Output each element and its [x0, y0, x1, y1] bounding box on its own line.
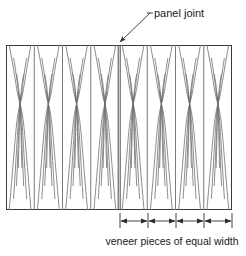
dimension-caption: veneer pieces of equal width — [105, 235, 238, 247]
panel-joint-callout: panel joint — [120, 7, 204, 42]
dimension-segment — [177, 219, 204, 224]
dimension-segment — [149, 219, 176, 224]
panel-body — [7, 45, 232, 210]
dimension-string — [120, 213, 232, 228]
veneer-panel-diagram: panel joint — [0, 0, 246, 256]
figure-root: panel joint — [0, 0, 246, 256]
panel-joint-leader-line — [120, 13, 150, 42]
dimension-segment — [121, 219, 148, 224]
panel-joint-label: panel joint — [154, 7, 204, 19]
dimension-segment — [205, 219, 232, 224]
panel-outline — [7, 46, 232, 210]
